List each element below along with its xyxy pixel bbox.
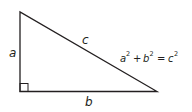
svg-text:2: 2 [174, 50, 178, 58]
svg-text:+: + [133, 53, 141, 64]
side-a-label: a [9, 46, 16, 60]
pythagorean-equation: a 2 + b 2 = c 2 [120, 50, 178, 64]
right-triangle [20, 12, 157, 92]
svg-text:=: = [157, 53, 165, 64]
pythagorean-diagram: a b c a 2 + b 2 = c 2 [0, 0, 192, 112]
svg-text:2: 2 [126, 50, 130, 58]
right-angle-marker [20, 84, 28, 92]
side-b-label: b [85, 95, 93, 109]
side-c-label: c [82, 33, 89, 47]
svg-text:b: b [143, 53, 149, 64]
svg-text:2: 2 [150, 50, 154, 58]
